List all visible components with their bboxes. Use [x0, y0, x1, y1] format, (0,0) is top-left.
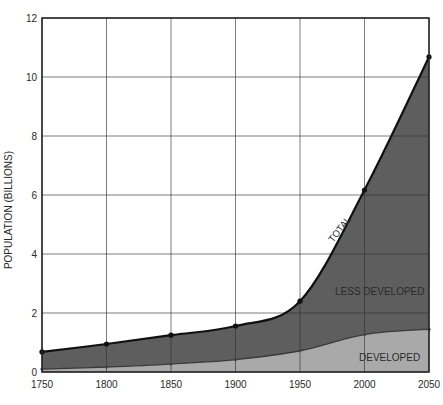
developed-label: DEVELOPED — [359, 352, 420, 363]
x-tick-label: 1850 — [160, 379, 183, 390]
developed-point — [105, 365, 108, 368]
y-tick-label: 0 — [31, 367, 37, 378]
developed-point — [169, 362, 172, 365]
chart-canvas: 024681012 1750180018501900195020002050 P… — [0, 0, 443, 405]
x-axis-ticks: 1750180018501900195020002050 — [31, 379, 441, 390]
total-point — [168, 333, 173, 338]
y-tick-label: 10 — [26, 72, 38, 83]
y-tick-label: 2 — [31, 308, 37, 319]
y-tick-label: 4 — [31, 249, 37, 260]
y-tick-label: 6 — [31, 190, 37, 201]
developed-point — [234, 358, 237, 361]
y-tick-label: 8 — [31, 131, 37, 142]
y-axis-label: POPULATION (BILLIONS) — [3, 151, 14, 269]
total-point — [104, 341, 109, 346]
x-tick-label: 1800 — [95, 379, 118, 390]
x-tick-label: 1900 — [224, 379, 247, 390]
population-area-chart: 024681012 1750180018501900195020002050 P… — [0, 0, 443, 405]
total-point — [297, 299, 302, 304]
y-tick-label: 12 — [26, 13, 38, 24]
total-point — [233, 323, 238, 328]
less-developed-label: LESS DEVELOPED — [335, 286, 424, 297]
developed-point — [363, 333, 366, 336]
x-tick-label: 2000 — [353, 379, 376, 390]
x-tick-label: 1750 — [31, 379, 54, 390]
x-tick-label: 2050 — [418, 379, 441, 390]
developed-point — [298, 349, 301, 352]
total-point — [362, 187, 367, 192]
y-axis-ticks: 024681012 — [26, 13, 38, 378]
x-tick-label: 1950 — [289, 379, 312, 390]
